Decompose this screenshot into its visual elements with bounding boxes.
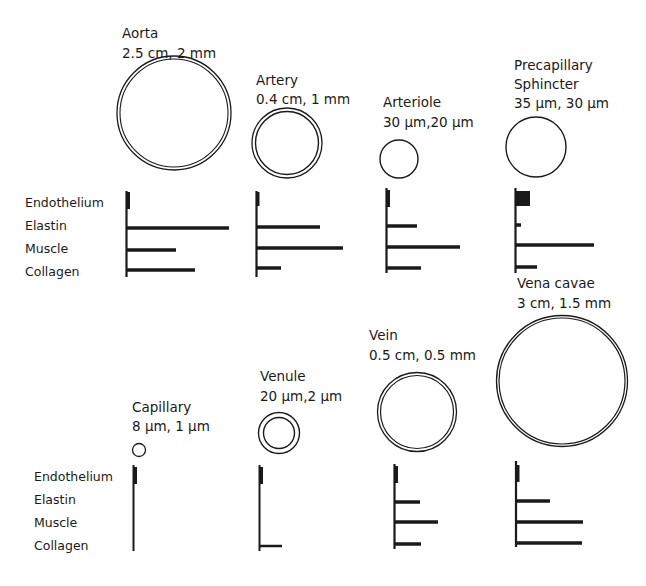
arteriole-cross-section: [380, 140, 418, 178]
row-label-elastin-bottom: Elastin: [34, 492, 76, 507]
venule-size: 20 µm,2 µm: [260, 387, 342, 405]
precapillary-sphincter-cross-section: [506, 117, 566, 177]
vena-cavae-size: 3 cm, 1.5 mm: [517, 294, 611, 312]
artery-cross-section: [252, 108, 322, 178]
row-label-collagen: Collagen: [25, 264, 80, 279]
vena-cavae-bar-chart: [516, 461, 584, 547]
vena-cavae-label: Vena cavae: [517, 274, 595, 292]
precap-size: 35 µm, 30 µm: [514, 94, 609, 112]
vein-cross-section: [378, 373, 457, 452]
artery-label: Artery: [256, 71, 298, 89]
row-label-muscle-bottom: Muscle: [34, 515, 77, 530]
vein-size: 0.5 cm, 0.5 mm: [369, 346, 476, 364]
arteriole-label: Arteriole: [383, 93, 441, 111]
precap-label-line2: Sphincter: [514, 75, 579, 93]
venule-bar-chart: [259, 465, 282, 551]
capillary-label: Capillary: [132, 398, 191, 416]
row-label-endothelium: Endothelium: [25, 195, 104, 210]
row-label-muscle: Muscle: [25, 241, 68, 256]
arteriole-bar-chart: [386, 188, 460, 273]
aorta-label: Aorta: [122, 24, 158, 42]
capillary-bar-chart: [133, 465, 137, 551]
aorta-size: 2.5 cm, 2 mm: [122, 44, 216, 62]
arteriole-size: 30 µm,20 µm: [383, 113, 474, 131]
precapillary-sphincter-bar-chart: [515, 188, 594, 273]
vein-label: Vein: [369, 326, 398, 344]
aorta-bar-chart: [126, 191, 229, 277]
aorta-cross-section: [117, 56, 231, 170]
capillary-size: 8 µm, 1 µm: [132, 417, 210, 435]
venule-label: Venule: [260, 367, 306, 385]
artery-bar-chart: [256, 191, 343, 277]
precap-label-line1: Precapillary: [514, 56, 593, 74]
venule-cross-section: [259, 413, 300, 454]
capillary-cross-section: [133, 444, 146, 457]
vena-cavae-cross-section: [497, 316, 628, 447]
row-label-endothelium-bottom: Endothelium: [34, 469, 113, 484]
artery-size: 0.4 cm, 1 mm: [256, 90, 350, 108]
vein-bar-chart: [394, 464, 438, 549]
row-label-elastin: Elastin: [25, 218, 67, 233]
row-label-collagen-bottom: Collagen: [34, 538, 89, 553]
